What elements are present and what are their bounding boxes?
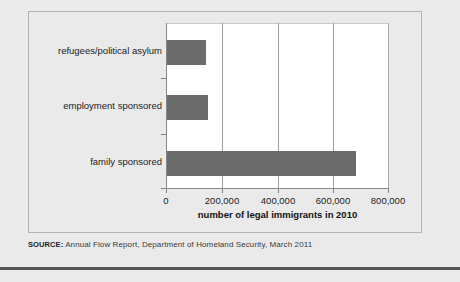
source-label: SOURCE: [28,240,63,249]
x-axis-tick-800000 [388,189,389,193]
source-text: Annual Flow Report, Department of Homela… [63,240,312,249]
plot-area [166,23,389,189]
x-tick-label-0: 0 [163,195,168,206]
source-note: SOURCE: Annual Flow Report, Department o… [28,240,312,249]
y-axis-line [166,23,167,189]
x-tick-label-200000: 200,000 [205,195,239,206]
plot-right-border [388,23,389,189]
figure-container: refugees/political asylum employment spo… [28,11,422,233]
x-axis-title: number of legal immigrants in 2010 [166,209,389,220]
y-axis-tick-2 [161,134,166,135]
x-axis-tick-600000 [333,189,334,193]
x-axis-tick-labels: 0 200,000 400,000 600,000 800,000 [166,195,389,209]
x-tick-label-400000: 400,000 [261,195,295,206]
y-axis-tick-1 [161,78,166,79]
bar-chart: refugees/political asylum employment spo… [29,12,423,234]
x-axis-tick-200000 [222,189,223,193]
bar-refugees-political-asylum [166,40,206,65]
bar-employment-sponsored [166,95,208,120]
category-label-refugees: refugees/political asylum [58,45,162,56]
category-label-employment: employment sponsored [63,100,162,111]
category-axis-labels: refugees/political asylum employment spo… [29,23,162,189]
x-axis-tick-400000 [278,189,279,193]
x-tick-label-600000: 600,000 [316,195,350,206]
x-axis-tick-0 [166,189,167,193]
x-tick-label-800000: 800,000 [371,195,405,206]
bottom-divider [0,267,460,270]
bar-family-sponsored [166,151,356,176]
category-label-family: family sponsored [90,156,162,167]
